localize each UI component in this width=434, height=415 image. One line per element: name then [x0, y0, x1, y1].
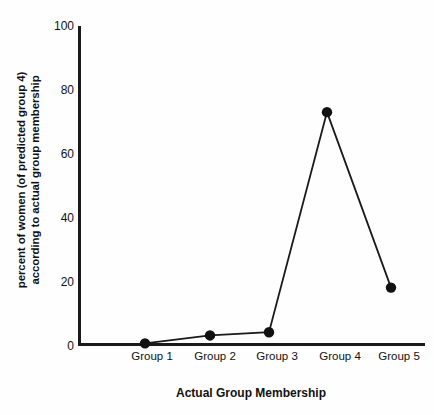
- data-markers: [140, 107, 396, 349]
- chart-container: percent of women (of predicted group 4) …: [0, 0, 434, 415]
- x-tick-label-group-1: Group 1: [131, 350, 173, 362]
- x-axis-title: Actual Group Membership: [76, 386, 426, 400]
- data-point-5: [386, 282, 396, 292]
- data-point-2: [205, 330, 215, 340]
- x-tick-label-group-2: Group 2: [194, 350, 236, 362]
- x-tick-label-group-5: Group 5: [378, 350, 420, 362]
- data-point-4: [322, 107, 332, 117]
- x-tick-label-group-3: Group 3: [256, 350, 298, 362]
- data-point-3: [264, 327, 274, 337]
- x-tick-label-group-4: Group 4: [319, 350, 361, 362]
- data-line-series-1: [145, 112, 391, 343]
- data-point-1: [140, 338, 150, 348]
